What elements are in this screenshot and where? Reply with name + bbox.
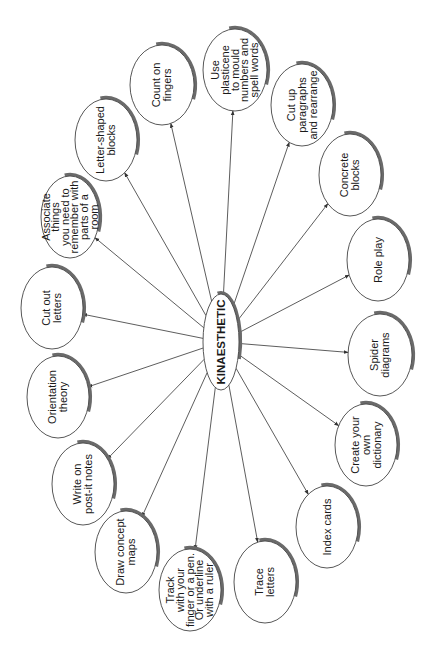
- edge-to-write-on-post-it-notes: [107, 359, 204, 459]
- edge-to-trace-letters: [229, 385, 258, 542]
- node-draw-concept-maps: Draw conceptmaps: [95, 509, 158, 593]
- node-label: Role play: [372, 237, 384, 283]
- node-cut-up-paragraphs: Cut upparagraphsand rearrange: [271, 62, 334, 146]
- node-associate-things: Associatethingsyou need toremember withp…: [40, 174, 101, 258]
- edge-to-cut-up-paragraphs: [233, 142, 289, 306]
- node-spider-diagrams: Spiderdiagrams: [348, 312, 414, 396]
- node-label: Cut outletters: [40, 290, 63, 325]
- node-concrete-blocks: Concreteblocks: [319, 132, 382, 216]
- node-index-cards: Index cards: [296, 484, 359, 568]
- edge-to-spider-diagrams: [239, 343, 348, 352]
- node-cut-out-letters: Cut outletters: [21, 265, 84, 349]
- center-node: KINAESTHETIC: [203, 293, 240, 390]
- node-trace-letters: Traceletters: [234, 539, 297, 623]
- node-label: Index cards: [321, 498, 333, 555]
- edge-to-orientation-theory: [88, 348, 203, 387]
- edge-to-index-cards: [236, 368, 308, 494]
- edge-to-role-play: [239, 275, 350, 333]
- node-use-plasticene: Useplasticeneto mouldnumbers andspell wo…: [203, 27, 269, 111]
- edge-to-create-your-own-dictionary: [238, 354, 338, 425]
- node-label: Count onfingers: [150, 63, 173, 108]
- node-role-play: Role play: [347, 217, 410, 301]
- node-write-on-post-it-notes: Write onpost-it notes: [52, 441, 115, 525]
- edge-to-concrete-blocks: [237, 204, 328, 321]
- node-count-on-fingers: Count onfingers: [130, 43, 196, 125]
- node-orientation-theory: Orientationtheory: [27, 354, 90, 438]
- mind-map-canvas: Count onfingersUseplasticeneto mouldnumb…: [0, 0, 427, 666]
- edge-to-count-on-fingers: [171, 123, 212, 301]
- edge-to-track-with-finger: [195, 388, 215, 550]
- node-label: Traceletters: [253, 567, 276, 597]
- edge-to-cut-out-letters: [83, 314, 203, 338]
- center-label: KINAESTHETIC: [215, 300, 227, 385]
- node-track-with-finger: Trackwith yourfinger or a pen.Or underli…: [159, 547, 222, 631]
- node-create-your-own-dictionary: Create yourowndictionary: [335, 402, 398, 486]
- node-letter-shaped-blocks: Letter-shapedblocks: [75, 97, 138, 181]
- edge-to-letter-shaped-blocks: [125, 173, 206, 316]
- edge-to-use-plasticene: [223, 111, 232, 295]
- edge-to-draw-concept-maps: [142, 373, 207, 517]
